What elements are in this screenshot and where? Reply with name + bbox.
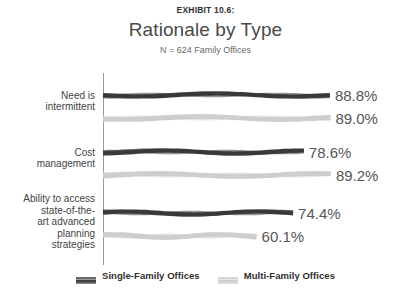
category-label-line: management <box>3 158 95 170</box>
bar-multi-family-2[interactable] <box>103 229 259 243</box>
category-label-line: Ability to access <box>3 193 95 205</box>
chart-legend: Single-Family Offices Multi-Family Offic… <box>0 270 411 281</box>
value-label-single-family-1: 78.6% <box>309 145 352 160</box>
value-label-multi-family-0: 89.0% <box>335 111 378 126</box>
category-label: Costmanagement <box>3 147 95 170</box>
value-label-multi-family-2: 60.1% <box>262 229 305 244</box>
category-label-line: intermittent <box>3 101 95 113</box>
bar-multi-family-0[interactable] <box>103 111 332 125</box>
value-label-single-family-2: 74.4% <box>298 206 341 221</box>
category-label-line: strategies <box>3 239 95 251</box>
chart-plot-area: Need isintermittent 88.8% 89.0% Costmana… <box>0 0 411 299</box>
value-label-multi-family-1: 89.2% <box>336 168 379 183</box>
category-label: Ability to accessstate-of-the-art advanc… <box>3 193 95 251</box>
bar-multi-family-1[interactable] <box>103 168 333 182</box>
value-label-single-family-0: 88.8% <box>335 88 378 103</box>
category-label-line: Cost <box>3 147 95 159</box>
bar-single-family-2[interactable] <box>103 206 295 220</box>
legend-item-single-family[interactable]: Single-Family Offices <box>76 270 200 281</box>
bar-single-family-1[interactable] <box>103 145 306 159</box>
bar-single-family-0[interactable] <box>103 88 332 102</box>
category-label: Need isintermittent <box>3 90 95 113</box>
category-label-line: art advanced <box>3 216 95 228</box>
legend-swatch-icon <box>76 271 96 280</box>
legend-item-multi-family[interactable]: Multi-Family Offices <box>218 270 335 281</box>
legend-swatch-icon <box>218 271 238 280</box>
legend-label: Single-Family Offices <box>102 270 200 281</box>
category-label-line: Need is <box>3 90 95 102</box>
legend-label: Multi-Family Offices <box>244 270 335 281</box>
category-label-line: planning <box>3 228 95 240</box>
category-label-line: state-of-the- <box>3 205 95 217</box>
